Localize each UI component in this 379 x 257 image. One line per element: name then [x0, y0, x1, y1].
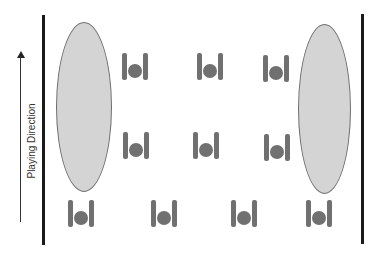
player-bar-left	[68, 200, 73, 227]
direction-arrow	[20, 56, 21, 222]
player-icon	[263, 55, 289, 83]
player-icon	[123, 132, 149, 160]
player-bar-right	[284, 55, 289, 82]
player-bar-right	[252, 200, 257, 227]
player-icon	[151, 200, 177, 228]
arrow-up-icon	[17, 51, 25, 58]
player-ball	[237, 211, 251, 225]
player-ball	[157, 211, 171, 225]
player-icon	[122, 53, 148, 81]
player-ball	[74, 211, 88, 225]
left-zone-ellipse	[56, 22, 112, 192]
player-ball	[129, 143, 143, 157]
player-bar-left	[306, 200, 311, 227]
player-icon	[306, 200, 332, 228]
player-ball	[199, 143, 213, 157]
player-icon	[68, 200, 94, 228]
player-ball	[269, 66, 283, 80]
player-bar-left	[231, 200, 236, 227]
player-bar-left	[264, 134, 269, 161]
player-bar-left	[197, 53, 202, 80]
player-bar-right	[172, 200, 177, 227]
player-icon	[193, 132, 219, 160]
right-boundary-line	[361, 14, 364, 244]
player-bar-left	[263, 55, 268, 82]
player-icon	[264, 134, 290, 162]
left-boundary-line	[42, 15, 45, 245]
player-bar-left	[123, 132, 128, 159]
player-bar-right	[144, 132, 149, 159]
direction-label: Playing Direction	[26, 103, 37, 178]
player-bar-right	[218, 53, 223, 80]
player-ball	[128, 64, 142, 78]
player-ball	[270, 145, 284, 159]
right-zone-ellipse	[298, 24, 351, 194]
player-bar-right	[89, 200, 94, 227]
player-bar-right	[327, 200, 332, 227]
player-bar-right	[285, 134, 290, 161]
player-bar-left	[193, 132, 198, 159]
player-icon	[231, 200, 257, 228]
player-bar-left	[151, 200, 156, 227]
player-bar-right	[214, 132, 219, 159]
player-icon	[197, 53, 223, 81]
player-ball	[203, 64, 217, 78]
player-ball	[312, 211, 326, 225]
player-bar-left	[122, 53, 127, 80]
player-bar-right	[143, 53, 148, 80]
